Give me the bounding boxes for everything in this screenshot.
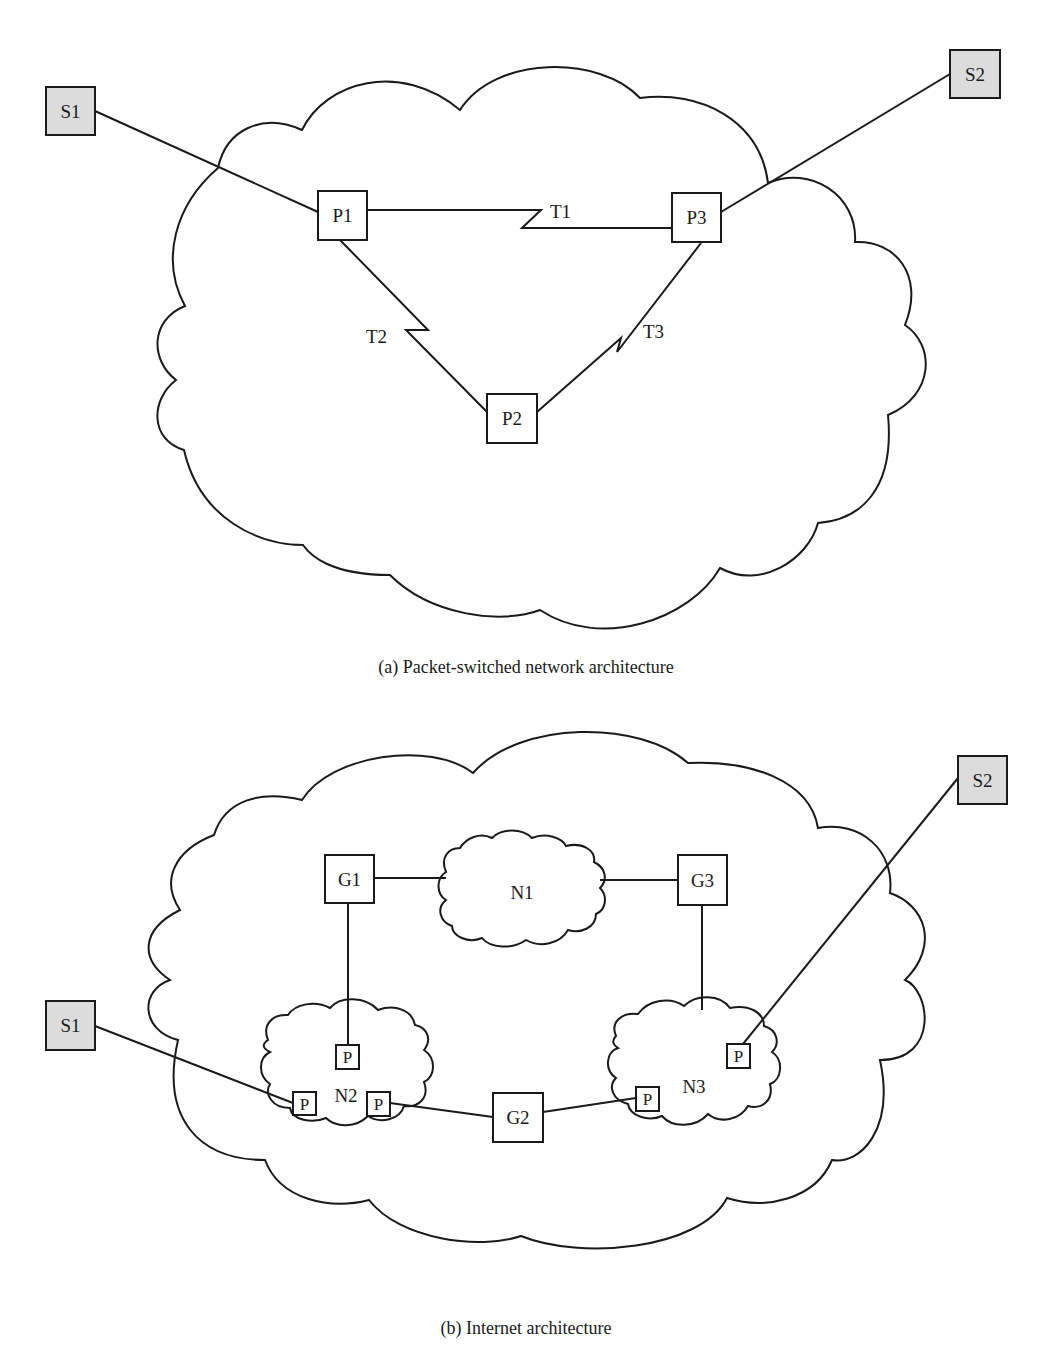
network-label-n3: N3 bbox=[682, 1076, 705, 1097]
packet-node-label: P bbox=[374, 1095, 383, 1114]
station-s2: S2 bbox=[958, 756, 1007, 804]
trunk-label-t3: T3 bbox=[643, 321, 664, 342]
packet-node-p1: P1 bbox=[318, 191, 367, 240]
station-label: S1 bbox=[60, 1015, 80, 1036]
node-label: P2 bbox=[502, 408, 522, 429]
trunk-label-t2: T2 bbox=[366, 326, 387, 347]
caption-b: (b) Internet architecture bbox=[441, 1318, 612, 1339]
packet-node-label: P bbox=[734, 1047, 743, 1066]
gateway-label: G1 bbox=[338, 869, 361, 890]
access-link-s2-p3 bbox=[721, 74, 950, 212]
packet-node-n3-right: P bbox=[727, 1044, 750, 1068]
network-architecture-figure: S1 S2 P1 P2 P3 T1 T2 T3 (a) Packet-switc… bbox=[0, 0, 1052, 1364]
packet-node-n2-top: P bbox=[336, 1045, 359, 1069]
internet-cloud-b bbox=[148, 732, 925, 1248]
node-label: P1 bbox=[332, 205, 352, 226]
network-label-n1: N1 bbox=[510, 882, 533, 903]
gateway-g2: G2 bbox=[493, 1093, 543, 1142]
network-label-n2: N2 bbox=[334, 1085, 357, 1106]
station-s1: S1 bbox=[46, 87, 95, 135]
diagram-a: S1 S2 P1 P2 P3 T1 T2 T3 (a) Packet-switc… bbox=[46, 50, 1000, 678]
trunk-label-t1: T1 bbox=[550, 201, 571, 222]
packet-node-n2-left: P bbox=[293, 1092, 316, 1115]
gateway-label: G2 bbox=[506, 1107, 529, 1128]
gateway-label: G3 bbox=[691, 870, 714, 891]
station-label: S1 bbox=[60, 101, 80, 122]
node-label: P3 bbox=[686, 207, 706, 228]
caption-a: (a) Packet-switched network architecture bbox=[378, 657, 673, 678]
packet-node-n3-left: P bbox=[636, 1087, 659, 1111]
packet-node-label: P bbox=[343, 1048, 352, 1067]
packet-node-label: P bbox=[300, 1095, 309, 1114]
station-s1: S1 bbox=[46, 1001, 95, 1050]
station-s2: S2 bbox=[950, 50, 1000, 98]
packet-node-label: P bbox=[643, 1090, 652, 1109]
network-cloud-n3 bbox=[608, 997, 780, 1125]
gateway-g1: G1 bbox=[325, 855, 374, 903]
packet-node-p3: P3 bbox=[672, 193, 721, 242]
network-cloud-a bbox=[157, 67, 925, 628]
packet-node-n2-right: P bbox=[367, 1092, 390, 1116]
diagram-b: S1 S2 G1 G2 G3 N1 N2 N3 P P bbox=[46, 732, 1007, 1339]
station-label: S2 bbox=[972, 770, 992, 791]
packet-node-p2: P2 bbox=[487, 394, 537, 443]
station-label: S2 bbox=[965, 64, 985, 85]
gateway-g3: G3 bbox=[678, 855, 727, 905]
